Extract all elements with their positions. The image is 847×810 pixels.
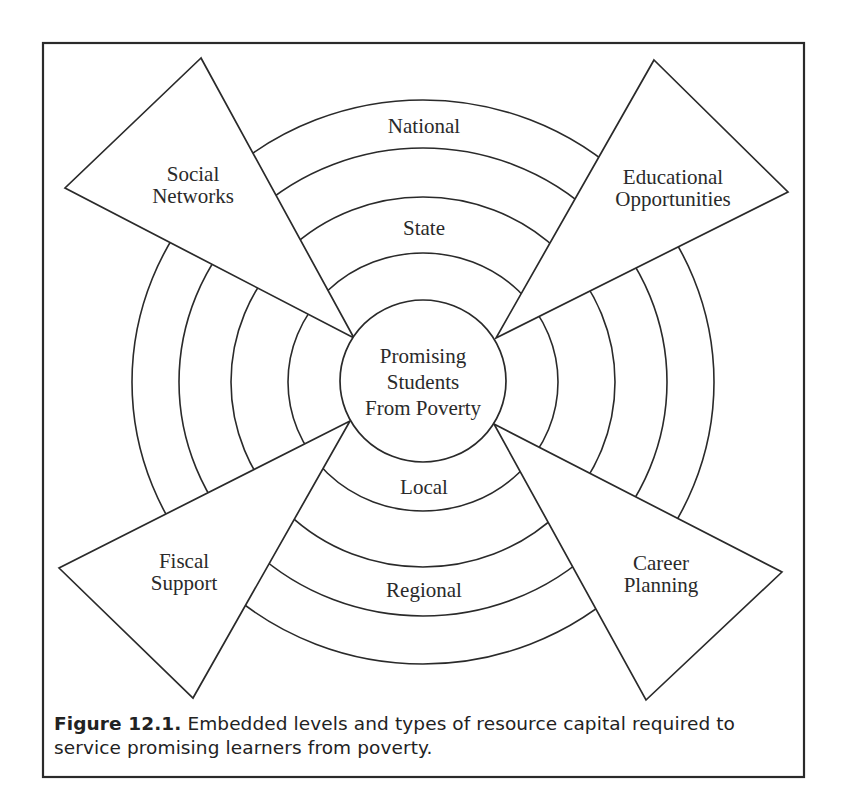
figure-number: Figure 12.1.: [54, 713, 181, 734]
social-networks-label-line-1: Social: [167, 162, 220, 186]
level-label-regional: Regional: [386, 578, 462, 602]
level-label-state: State: [403, 216, 445, 240]
fiscal-support-label-line-1: Fiscal: [159, 549, 209, 573]
center-label-line-2: Students: [387, 370, 459, 394]
center-label-line-1: Promising: [380, 344, 467, 368]
level-label-national: National: [388, 114, 460, 138]
career-planning-label-line-2: Planning: [624, 573, 699, 597]
social-networks-label-line-2: Networks: [152, 184, 234, 208]
educational-opportunities-label-line-1: Educational: [623, 165, 723, 189]
level-label-local: Local: [400, 475, 448, 499]
figure-caption: Figure 12.1. Embedded levels and types o…: [54, 712, 799, 760]
career-planning-label-line-1: Career: [633, 551, 689, 575]
fiscal-support-label-line-2: Support: [151, 571, 218, 595]
educational-opportunities-label-line-2: Opportunities: [615, 187, 731, 211]
embedded-levels-diagram: National State Local Regional Promising …: [0, 0, 847, 810]
center-label-line-3: From Poverty: [365, 396, 482, 420]
